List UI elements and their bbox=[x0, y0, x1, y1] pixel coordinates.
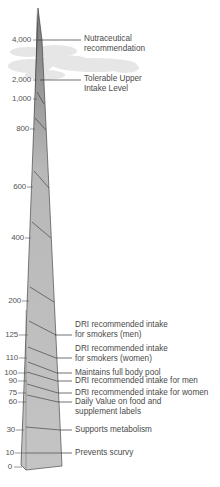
annotation-line2: Intake Level bbox=[84, 84, 142, 94]
tick-label-600: 600 bbox=[0, 182, 26, 191]
annotation-line1: Daily Value on food and bbox=[75, 397, 161, 407]
annotation-line2: recommendation bbox=[84, 44, 145, 54]
tick-label-800: 800 bbox=[0, 124, 29, 133]
vitamin-c-intake-diagram: 4,000 2,000 1,000 800 600 400 200 125 11… bbox=[0, 0, 220, 487]
tick-label-90: 90 bbox=[0, 376, 17, 385]
tick-label-60: 60 bbox=[0, 397, 17, 406]
annotation-line2: for smokers (women) bbox=[75, 354, 168, 364]
annotation-line2: supplement labels bbox=[75, 407, 161, 417]
annotation-line1: Tolerable Upper bbox=[84, 74, 142, 84]
tick-label-1000: 1,000 bbox=[1, 94, 31, 103]
annotation-line1: Nutraceutical bbox=[84, 34, 145, 44]
annotation-nutraceutical: Nutraceutical recommendation bbox=[84, 34, 145, 53]
annotation-dri-men: DRI recommended intake for men bbox=[75, 376, 198, 386]
tick-label-0: 0 bbox=[0, 462, 12, 471]
annotation-daily-value: Daily Value on food and supplement label… bbox=[75, 397, 161, 416]
tick-label-30: 30 bbox=[0, 425, 15, 434]
tick-label-200: 200 bbox=[0, 296, 21, 305]
tick-label-10: 10 bbox=[0, 448, 14, 457]
tick-label-2000: 2,000 bbox=[1, 75, 31, 84]
annotation-line2: for smokers (men) bbox=[75, 330, 168, 340]
annotation-tolerable-upper-intake: Tolerable Upper Intake Level bbox=[84, 74, 142, 93]
tick-label-110: 110 bbox=[0, 353, 18, 362]
annotation-line1: DRI recommended intake bbox=[75, 344, 168, 354]
tick-label-400: 400 bbox=[0, 233, 24, 242]
annotation-supports-metabolism: Supports metabolism bbox=[75, 425, 152, 435]
tick-label-75: 75 bbox=[0, 388, 17, 397]
annotation-dri-smokers-women: DRI recommended intake for smokers (wome… bbox=[75, 344, 168, 363]
annotation-prevents-scurvy: Prevents scurvy bbox=[75, 448, 133, 458]
annotation-line1: DRI recommended intake bbox=[75, 320, 168, 330]
tick-label-4000: 4,000 bbox=[1, 35, 31, 44]
tick-label-125: 125 bbox=[0, 330, 18, 339]
annotation-dri-smokers-men: DRI recommended intake for smokers (men) bbox=[75, 320, 168, 339]
